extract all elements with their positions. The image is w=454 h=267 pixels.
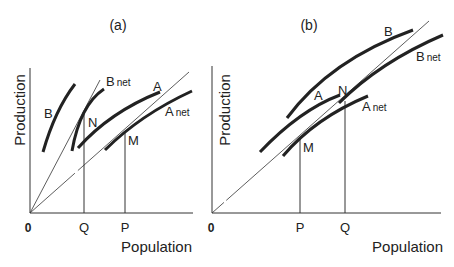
point-n: N bbox=[88, 115, 97, 130]
label-b-net: Bnet bbox=[106, 74, 131, 89]
y-axis-label: Production bbox=[11, 74, 28, 146]
label-a: A bbox=[314, 88, 323, 103]
x-axis-label: Population bbox=[121, 238, 192, 255]
curve-b-net bbox=[339, 35, 443, 103]
x-axis-label: Population bbox=[372, 238, 443, 255]
panel-a: (a) 0 Production Population B Bnet A Ane… bbox=[11, 17, 193, 255]
tick-p: P bbox=[121, 220, 130, 235]
panel-b: (b) 0 Production Population B Bnet A Ane… bbox=[208, 17, 443, 255]
label-a: A bbox=[153, 79, 162, 94]
tick-q: Q bbox=[340, 220, 350, 235]
label-a-net: Anet bbox=[362, 99, 387, 114]
y-axis-label: Production bbox=[216, 74, 233, 146]
origin-label: 0 bbox=[208, 221, 215, 235]
curve-a-net bbox=[105, 91, 192, 150]
point-m: M bbox=[128, 133, 139, 148]
panel-a-title: (a) bbox=[109, 17, 126, 33]
label-a-net: Anet bbox=[165, 104, 190, 119]
diagram-canvas: (a) 0 Production Population B Bnet A Ane… bbox=[0, 0, 454, 267]
tick-q: Q bbox=[79, 220, 89, 235]
origin-label: 0 bbox=[25, 221, 32, 235]
point-m: M bbox=[303, 140, 314, 155]
ray-shallow bbox=[30, 72, 189, 213]
panel-b-title: (b) bbox=[300, 17, 317, 33]
ray bbox=[212, 21, 429, 213]
label-b: B bbox=[384, 24, 393, 39]
tick-p: P bbox=[296, 220, 305, 235]
point-n: N bbox=[338, 83, 347, 98]
label-b-net: Bnet bbox=[416, 49, 441, 64]
label-b: B bbox=[44, 106, 53, 121]
